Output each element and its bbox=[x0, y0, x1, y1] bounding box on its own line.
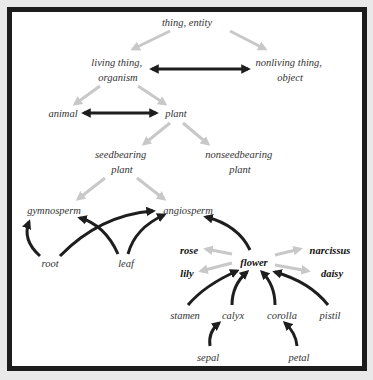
arrow-living-animal bbox=[75, 86, 100, 104]
node-sepal: sepal bbox=[197, 352, 219, 363]
node-rose: rose bbox=[180, 245, 198, 256]
node-flower: flower bbox=[240, 257, 268, 268]
arrow-petal-corolla bbox=[285, 323, 297, 346]
arrow-flower-rose bbox=[206, 249, 232, 254]
arrow-thing-nonliving bbox=[230, 31, 265, 49]
arrow-flower-narcissus bbox=[275, 249, 300, 255]
node-angiosperm: angiosperm bbox=[163, 205, 213, 216]
node-leaf: leaf bbox=[118, 258, 136, 269]
node-plant: plant bbox=[164, 108, 188, 119]
node-corolla: corolla bbox=[267, 310, 297, 321]
arrow-plant-nonseedbearing bbox=[183, 123, 208, 144]
node-root: root bbox=[41, 258, 59, 269]
node-nonseedbearing-plant: nonseedbearing plant bbox=[205, 149, 275, 175]
arrow-flower-daisy bbox=[275, 265, 308, 271]
node-seedbearing-plant: seedbearing plant bbox=[95, 149, 149, 175]
arrow-flower-angiosperm bbox=[206, 217, 250, 250]
arrow-seedbearing-gymnosperm bbox=[78, 178, 105, 199]
arrow-plant-seedbearing bbox=[144, 123, 170, 144]
node-narcissus: narcissus bbox=[310, 245, 351, 256]
node-animal: animal bbox=[48, 108, 77, 119]
node-nonliving-thing: nonliving thing, object bbox=[255, 57, 324, 83]
node-thing-entity: thing, entity bbox=[162, 17, 212, 28]
node-pistil: pistil bbox=[318, 310, 340, 321]
arrow-seedbearing-angiosperm bbox=[137, 178, 164, 199]
node-gymnosperm: gymnosperm bbox=[27, 205, 81, 216]
arrow-leaf-angiosperm bbox=[128, 215, 164, 254]
node-lily: lily bbox=[180, 268, 194, 279]
node-petal: petal bbox=[288, 352, 310, 363]
arrow-root-gymnosperm bbox=[27, 222, 40, 256]
arrow-sepal-calyx bbox=[210, 323, 219, 346]
arrow-living-plant bbox=[138, 86, 165, 104]
arrow-calyx-flower bbox=[232, 272, 247, 305]
node-living-thing: living thing, organism bbox=[91, 57, 144, 83]
semantic-network-diagram: thing, entity living thing, organism non… bbox=[0, 0, 373, 380]
node-daisy: daisy bbox=[321, 268, 344, 279]
arrow-thing-living bbox=[133, 31, 170, 49]
arrow-corolla-flower bbox=[262, 272, 275, 305]
node-calyx: calyx bbox=[222, 310, 244, 321]
node-stamen: stamen bbox=[170, 310, 200, 321]
arrow-flower-lily bbox=[201, 263, 232, 271]
arrow-stamen-flower bbox=[188, 271, 237, 305]
